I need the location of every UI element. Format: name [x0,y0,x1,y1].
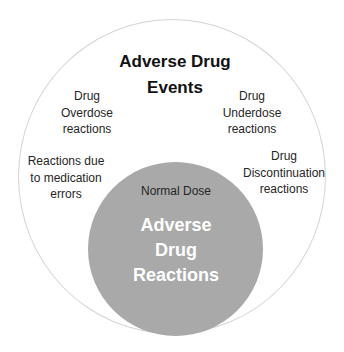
category-medication-errors: Reactions due to medication errors [28,153,105,203]
category-line: Discontinuation [243,165,325,182]
category-line: to medication [28,170,105,187]
normal-dose-caption: Normal Dose [141,183,211,200]
category-discontinuation-reactions: Drug Discontinuation reactions [243,148,325,198]
category-overdose-reactions: Drug Overdose reactions [61,88,113,138]
inner-title-line-3: Reactions [133,263,219,288]
normal-dose-text: Normal Dose [141,183,211,200]
category-line: Overdose [61,105,113,122]
category-line: Underdose [223,105,282,122]
category-line: reactions [61,121,113,138]
category-line: reactions [243,181,325,198]
category-line: errors [28,186,105,203]
inner-title-line-2: Drug [133,238,219,263]
adverse-drug-events-diagram: Adverse Drug Events Drug Overdose reacti… [0,0,344,352]
category-underdose-reactions: Drug Underdose reactions [223,88,282,138]
inner-circle-title: Adverse Drug Reactions [133,213,219,288]
category-line: Drug [223,88,282,105]
category-line: Drug [243,148,325,165]
outer-title-line-2: Events [119,75,230,101]
outer-circle-title: Adverse Drug Events [119,49,230,101]
outer-title-line-1: Adverse Drug [119,49,230,75]
category-line: reactions [223,121,282,138]
inner-title-line-1: Adverse [133,213,219,238]
category-line: Reactions due [28,153,105,170]
category-line: Drug [61,88,113,105]
